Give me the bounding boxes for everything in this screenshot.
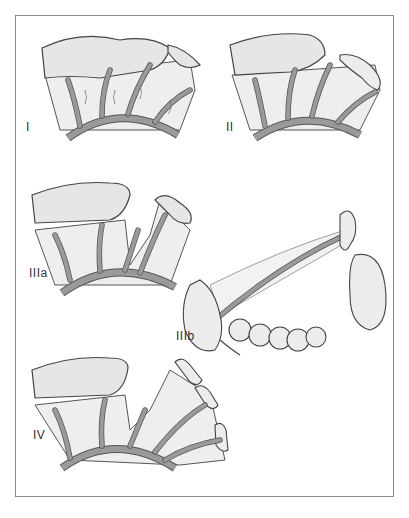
panel-ii-illustration [230,30,390,140]
panel-iiib-illustration [180,205,400,365]
panel-label-iiia: IIIa [29,266,48,280]
panel-iiia-illustration [30,175,200,295]
panel-i-illustration [40,30,200,140]
panel-label-ii: II [226,120,234,134]
panel-label-iiib: IIIb [176,329,195,343]
panel-label-iv: IV [33,428,45,442]
panel-iv-illustration [30,350,230,475]
panel-label-i: I [26,120,30,134]
